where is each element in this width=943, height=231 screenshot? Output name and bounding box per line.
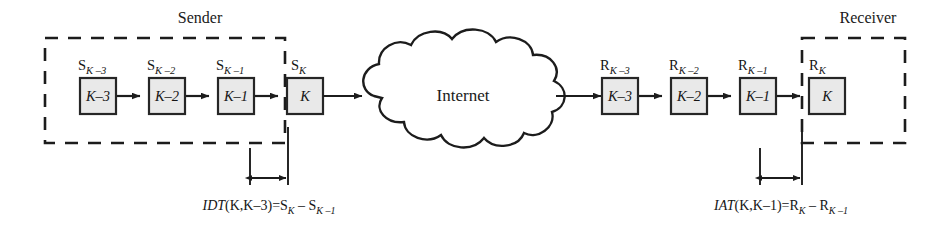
sender-packet-1-label: K–2 (154, 88, 179, 104)
sender-packet-2: K–1 SK –1 (216, 57, 254, 114)
sender-packet-1: K–2 SK –2 (147, 57, 185, 114)
sender-packet-0-label: K–3 (85, 88, 110, 104)
packet-timing-diagram: Sender K–3 SK –3 K–2 SK –2 K–1 (0, 0, 943, 231)
receiver-packet-0-tag: RK –3 (600, 57, 630, 76)
sender-packet-2-label: K–1 (223, 88, 248, 104)
sender-packet-3-tag: SK (291, 57, 307, 76)
sender-packet-3: K SK (287, 57, 323, 114)
sender-group: Sender K–3 SK –3 K–2 SK –2 K–1 (45, 9, 323, 143)
receiver-packet-3-label: K (821, 88, 833, 104)
sender-packet-2-tag: SK –1 (216, 57, 244, 76)
receiver-packet-1: K–2 RK –2 (669, 57, 707, 114)
sender-packet-1-tag: SK –2 (147, 57, 176, 76)
sender-packet-3-label: K (299, 88, 311, 104)
receiver-packet-0: K–3 RK –3 (600, 57, 638, 114)
receiver-packet-2-tag: RK –1 (738, 57, 768, 76)
receiver-packet-3: K RK (809, 57, 845, 114)
receiver-packet-2: K–1 RK –1 (738, 57, 776, 114)
diagram-canvas: Sender K–3 SK –3 K–2 SK –2 K–1 (0, 0, 943, 231)
idt-formula: IDT(K,K–3)=SK – SK –1 (202, 198, 336, 216)
internet-cloud: Internet (363, 30, 564, 148)
sender-packet-0: K–3 SK –3 (78, 57, 116, 114)
idt-measurement: IDT(K,K–3)=SK – SK –1 (202, 127, 336, 216)
sender-title: Sender (178, 9, 223, 26)
receiver-title: Receiver (840, 9, 898, 26)
receiver-packet-2-label: K–1 (745, 88, 770, 104)
receiver-packet-3-tag: RK (809, 57, 827, 76)
iat-formula: IAT(K,K–1)=RK – RK –1 (713, 198, 848, 216)
receiver-packet-1-tag: RK –2 (669, 57, 700, 76)
receiver-packet-0-label: K–3 (607, 88, 632, 104)
receiver-group: Receiver K–3 RK –3 K–2 RK –2 K–1 (600, 9, 905, 143)
receiver-packet-1-label: K–2 (676, 88, 701, 104)
internet-label: Internet (437, 86, 490, 105)
iat-measurement: IAT(K,K–1)=RK – RK –1 (713, 127, 848, 216)
sender-packet-0-tag: SK –3 (78, 57, 106, 76)
